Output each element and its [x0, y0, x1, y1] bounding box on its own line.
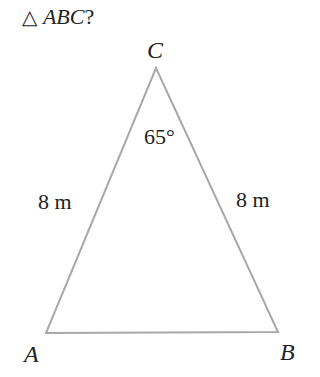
side-label-ac: 8 m	[38, 190, 72, 214]
vertex-label-b: B	[280, 340, 295, 364]
angle-label-c: 65°	[144, 125, 175, 149]
vertex-label-c: C	[147, 38, 163, 62]
side-label-bc: 8 m	[236, 188, 270, 212]
vertex-label-a: A	[24, 342, 39, 366]
